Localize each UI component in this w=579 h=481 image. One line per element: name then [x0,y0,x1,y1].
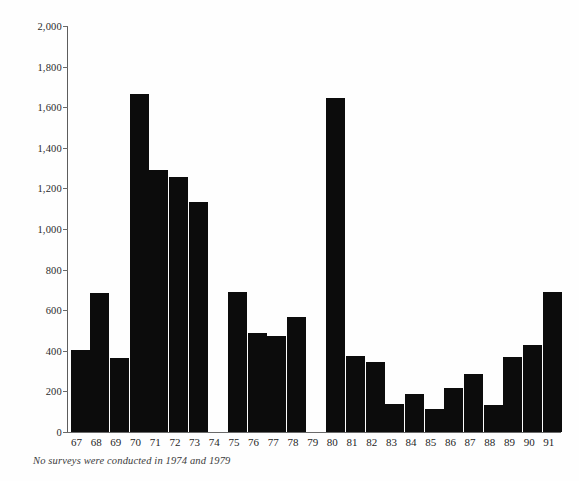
bar-88 [484,405,503,432]
bar-89 [503,357,522,432]
y-axis-tick-mark [63,432,68,433]
x-axis-line [67,432,561,433]
y-axis-tick-mark [63,188,68,189]
y-axis-tick-mark [63,67,68,68]
y-axis-tick-mark [63,351,68,352]
bar-77 [267,336,286,432]
y-axis-tick-mark [63,107,68,108]
y-axis-tick-mark [63,391,68,392]
bar-78 [287,317,306,432]
bar-chart-figure: 02004006008001,0001,2001,4001,6001,8002,… [0,0,579,481]
y-axis-tick-label: 2,000 [37,21,62,32]
bar-82 [366,362,385,432]
y-axis-tick-mark [63,310,68,311]
bar-75 [228,292,247,432]
bar-91 [543,292,562,432]
bar-83 [385,404,404,432]
bar-69 [110,358,129,432]
bar-73 [189,202,208,432]
y-axis-labels: 02004006008001,0001,2001,4001,6001,8002,… [0,0,62,481]
y-axis-tick-mark [63,26,68,27]
bar-68 [90,293,109,432]
bar-84 [405,394,424,432]
bar-70 [130,94,149,432]
y-axis-tick-label: 200 [46,386,62,397]
y-axis-tick-label: 1,600 [37,102,62,113]
bar-76 [248,333,267,432]
y-axis-tick-mark [63,229,68,230]
figure-caption: No surveys were conducted in 1974 and 19… [33,455,231,466]
y-axis-tick-label: 600 [46,305,62,316]
y-axis-tick-label: 1,000 [37,224,62,235]
y-axis-tick-label: 1,200 [37,183,62,194]
y-axis-tick-label: 1,400 [37,142,62,153]
y-axis-tick-label: 400 [46,345,62,356]
bar-71 [149,170,168,432]
bar-67 [71,350,90,432]
y-axis-tick-label: 1,800 [37,61,62,72]
y-axis-tick-mark [63,148,68,149]
bar-72 [169,177,188,432]
y-axis-tick-label: 0 [57,427,62,438]
bar-87 [464,374,483,432]
bar-90 [523,345,542,432]
y-axis-tick-label: 800 [46,264,62,275]
bar-85 [425,409,444,432]
x-axis-tick-label-91: 91 [536,436,562,448]
bar-80 [326,98,345,432]
bar-81 [346,356,365,432]
y-axis-tick-mark [63,270,68,271]
bar-86 [444,388,463,432]
x-axis-labels: 6768697071727374757677787980818283848586… [68,436,560,456]
plot-area [68,26,560,432]
